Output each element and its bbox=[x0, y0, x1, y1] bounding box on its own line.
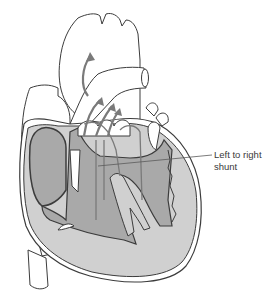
shunt-label-line2: shunt bbox=[214, 161, 262, 173]
pulmonary-vein-1 bbox=[146, 103, 158, 116]
tricuspid-valve bbox=[70, 150, 80, 192]
heart-diagram bbox=[0, 0, 268, 293]
right-atrium bbox=[30, 128, 66, 206]
pulmonary-artery-opening bbox=[142, 69, 149, 87]
shunt-label: Left to right shunt bbox=[214, 149, 262, 173]
shunt-label-line1: Left to right bbox=[214, 149, 262, 161]
